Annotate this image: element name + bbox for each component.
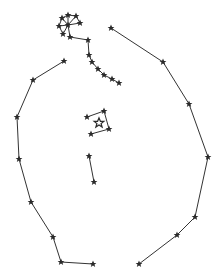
connector-line [53,237,61,262]
constellation-diagram [0,0,222,277]
star-icon [16,155,23,162]
connector-line [89,156,94,182]
connector-line [139,235,177,264]
connector-line [61,262,93,264]
star-icon [67,33,74,40]
connector-line [104,111,109,129]
star-icon [50,233,57,240]
constellation-lines [17,15,208,264]
star-icon [86,51,93,58]
star-icon [59,14,66,21]
connector-line [189,104,208,157]
connector-line [33,61,64,80]
star-markers [14,11,212,267]
connector-line [31,202,53,237]
star-icon [160,58,167,65]
connector-line [70,37,88,40]
star-icon [88,130,95,137]
star-icon [58,258,65,265]
connector-line [177,217,195,235]
star-icon [60,30,67,37]
star-icon [28,198,35,205]
star-icon [136,260,143,267]
star-icon [91,178,98,185]
connector-line [19,159,31,202]
connector-line [195,157,208,217]
star-icon [30,76,37,83]
connector-line [163,62,189,104]
star-icon [106,125,113,131]
star-icon [116,79,123,86]
star-icon [84,113,91,120]
hollow-star-icon [94,118,104,127]
star-icon [56,22,63,29]
star-icon [90,260,97,267]
connector-line [17,80,33,117]
star-icon [186,100,193,107]
star-icon [77,19,84,26]
connector-line [111,28,163,62]
connector-line [17,117,19,159]
star-icon [89,58,96,65]
star-icon [101,107,108,114]
